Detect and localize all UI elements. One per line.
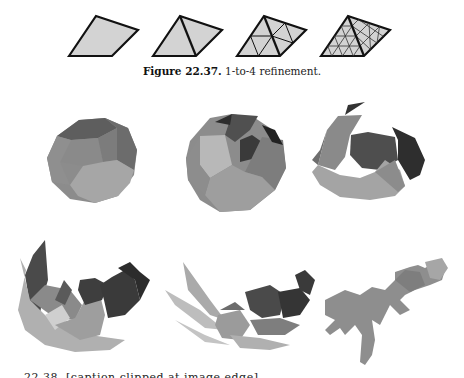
panel-opening-polyhedron <box>186 114 286 212</box>
refinement-panel-level-0 <box>69 16 138 56</box>
figure-unfolding <box>0 82 464 367</box>
figure-caption-unfolding-clipped: 22.38. [caption clipped at image edge] <box>24 371 464 378</box>
figure-refinement <box>0 0 464 62</box>
figure-caption-refinement: Figure 22.37. 1-to-4 refinement. <box>0 65 464 77</box>
refinement-panel-level-1 <box>153 16 222 56</box>
figure-caption-text: 1-to-4 refinement. <box>222 65 321 77</box>
panel-unfolding-polyhedron <box>312 102 425 200</box>
panel-closed-polyhedron <box>47 118 137 203</box>
figure-caption-unfolding-text: 22.38. [caption clipped at image edge] <box>24 371 464 378</box>
panel-half-unfolded-polyhedron <box>18 240 150 352</box>
refinement-panel-level-2 <box>237 16 306 56</box>
unfolding-sequence <box>0 82 464 367</box>
panel-flat-net <box>325 258 448 365</box>
refinement-diagram <box>0 0 464 62</box>
refinement-panel-level-3 <box>321 16 390 56</box>
panel-mostly-flat-polyhedron <box>165 262 315 350</box>
figure-caption-label: Figure 22.37. <box>143 65 222 77</box>
